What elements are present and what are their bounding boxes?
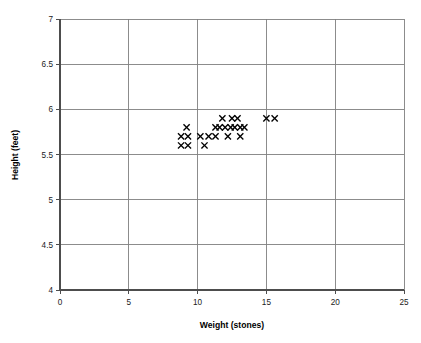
x-tick-label: 5 xyxy=(127,298,132,307)
y-tick-label: 7 xyxy=(48,15,53,24)
chart-canvas: 44.555.566.57 0510152025 Weight (stones)… xyxy=(0,0,421,343)
y-tick-label: 6 xyxy=(48,105,53,114)
y-tick-label: 5.5 xyxy=(42,151,54,160)
scatter-chart: 44.555.566.57 0510152025 Weight (stones)… xyxy=(0,0,421,343)
x-axis-title: Weight (stones) xyxy=(200,320,264,330)
x-tick-label: 0 xyxy=(58,298,63,307)
x-tick-label: 20 xyxy=(331,298,341,307)
y-tick-label: 4.5 xyxy=(42,241,54,250)
x-tick-label: 15 xyxy=(262,298,272,307)
x-tick-label: 10 xyxy=(193,298,203,307)
x-tick-label: 25 xyxy=(399,298,409,307)
y-tick-label: 6.5 xyxy=(42,60,54,69)
y-tick-label: 4 xyxy=(48,286,53,295)
y-tick-label: 5 xyxy=(48,196,53,205)
y-axis-title: Height (feet) xyxy=(10,130,20,180)
